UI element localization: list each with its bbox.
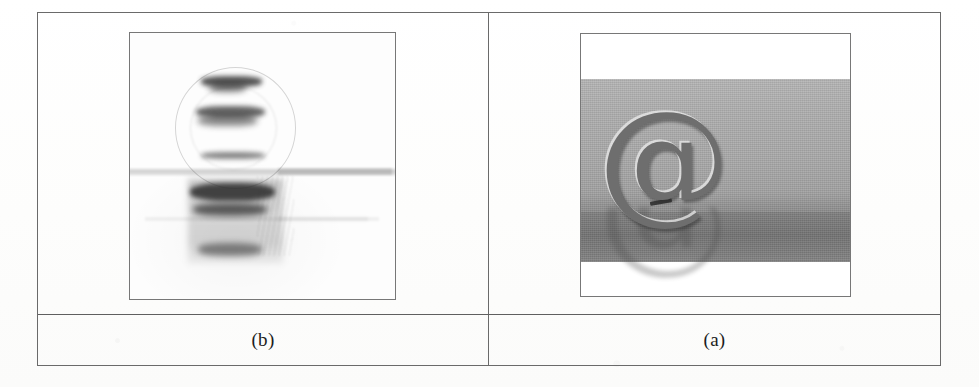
edge-band (198, 115, 256, 126)
edge-band (193, 203, 267, 216)
figure-caption-row: (b) (a) (38, 314, 940, 365)
horizon-edge-streak-right (278, 168, 392, 175)
figure-image-row: @ @ (38, 13, 940, 314)
edge-band (198, 243, 262, 256)
figure-table: @ @ (b) (a) (37, 12, 941, 366)
secondary-edge-streak-right (278, 217, 368, 221)
edge-band (201, 152, 265, 159)
filtered-image-b (130, 33, 395, 299)
edge-band (209, 84, 246, 92)
figure-caption-cell-b: (b) (38, 315, 489, 365)
original-photo-a: @ @ (581, 34, 850, 296)
figure-caption-cell-a: (a) (489, 315, 940, 365)
at-symbol-icon: @ (602, 92, 726, 228)
figure-caption-a: (a) (704, 329, 726, 351)
figure-cell-b (38, 13, 489, 314)
image-frame-b (129, 32, 396, 300)
figure-cell-a: @ @ (489, 13, 940, 314)
at-symbol-sculpture: @ (602, 92, 726, 228)
image-frame-a: @ @ (580, 33, 851, 297)
edge-band (190, 183, 275, 202)
figure-caption-b: (b) (251, 329, 274, 351)
